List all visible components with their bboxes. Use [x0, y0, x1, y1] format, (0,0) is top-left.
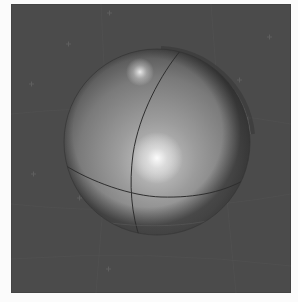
page-canvas: [0, 0, 298, 302]
sphere-render: [11, 4, 291, 293]
top-highlight: [126, 58, 154, 86]
main-highlight: [131, 132, 183, 184]
render-viewport: [11, 4, 291, 293]
